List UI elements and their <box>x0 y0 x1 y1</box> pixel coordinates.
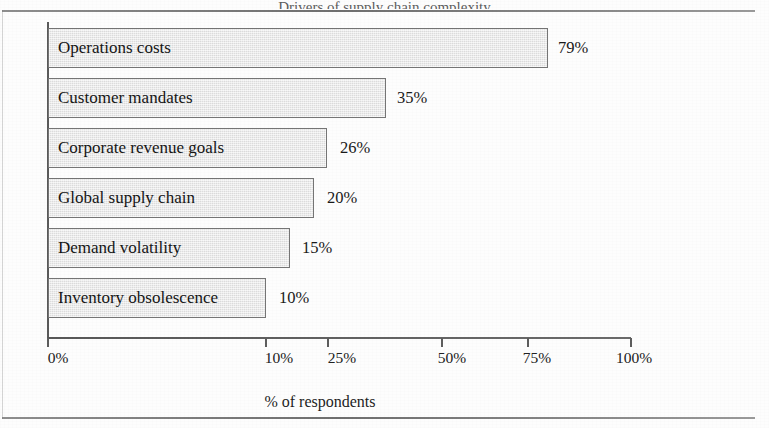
bar-demand-volatility[interactable]: Demand volatility <box>48 228 290 268</box>
bar-value-label: 26% <box>340 128 370 168</box>
bar-operations-costs[interactable]: Operations costs <box>48 28 548 68</box>
bar-value-label: 10% <box>279 278 309 318</box>
x-axis-spine <box>47 337 631 339</box>
x-axis-tick <box>265 338 267 347</box>
bar-chart-plot-area: 0% 10% 25% 50% 75% 100% Operations costs… <box>0 0 769 428</box>
x-axis-tick <box>527 338 529 347</box>
bar-value-label: 20% <box>327 178 357 218</box>
figure-container: Drivers of supply chain complexity 0% 10… <box>0 0 769 428</box>
x-axis-tick-label: 100% <box>616 349 652 367</box>
x-axis-tick-label: 25% <box>328 349 356 367</box>
bar-value-label: 35% <box>397 78 427 118</box>
x-axis-tick-label: 10% <box>265 349 293 367</box>
x-axis-tick <box>47 338 49 347</box>
x-axis-title: % of respondents <box>0 392 640 411</box>
bar-value-label: 79% <box>558 28 588 68</box>
x-axis-tick-label: 0% <box>48 349 69 367</box>
bar-inventory-obsolescence[interactable]: Inventory obsolescence <box>48 278 266 318</box>
bar-label: Global supply chain <box>58 188 195 208</box>
bar-customer-mandates[interactable]: Customer mandates <box>48 78 386 118</box>
bar-value-label: 15% <box>302 228 332 268</box>
bar-corporate-revenue-goals[interactable]: Corporate revenue goals <box>48 128 327 168</box>
x-axis-tick <box>327 338 329 347</box>
x-axis-tick <box>630 338 632 347</box>
bar-label: Operations costs <box>58 38 171 58</box>
bar-global-supply-chain[interactable]: Global supply chain <box>48 178 314 218</box>
x-axis-tick-label: 50% <box>438 349 466 367</box>
x-axis-tick-label: 75% <box>523 349 551 367</box>
bar-label: Customer mandates <box>58 88 193 108</box>
bar-label: Demand volatility <box>58 238 181 258</box>
x-axis-tick <box>441 338 443 347</box>
bar-label: Corporate revenue goals <box>58 138 224 158</box>
bar-label: Inventory obsolescence <box>58 288 218 308</box>
